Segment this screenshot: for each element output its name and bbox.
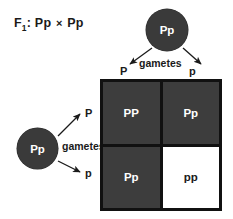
cross-symbol: × xyxy=(55,17,64,29)
gametes-label-left: gametes xyxy=(62,140,105,152)
generation-letter: F xyxy=(14,16,22,30)
arrow-left-parent-to-P xyxy=(58,114,80,136)
punnett-grid: PP Pp Pp pp xyxy=(100,79,222,211)
punnett-cell: PP xyxy=(103,82,160,144)
arrow-top-parent-to-p xyxy=(183,48,201,64)
punnett-square-diagram: F1: Pp × Pp Pp gametes P p Pp gametes P … xyxy=(0,0,233,219)
punnett-cell: Pp xyxy=(163,82,220,144)
gamete-allele-left-bottom: p xyxy=(85,167,92,179)
gamete-allele-top-left: P xyxy=(120,65,127,77)
punnett-cell-genotype: PP xyxy=(124,107,139,119)
punnett-cell: Pp xyxy=(103,147,160,209)
punnett-cell-genotype: Pp xyxy=(183,107,198,119)
parent-circle-top: Pp xyxy=(146,9,188,51)
gamete-allele-top-right: p xyxy=(189,65,196,77)
parent-left-genotype: Pp xyxy=(30,143,45,155)
parent-top-genotype: Pp xyxy=(160,24,175,36)
gamete-allele-left-top: P xyxy=(85,107,92,119)
gametes-label-top: gametes xyxy=(139,57,182,69)
arrow-left-parent-to-p xyxy=(58,161,80,172)
parent-circle-left: Pp xyxy=(17,128,58,169)
parent1-genotype-label: Pp xyxy=(35,16,51,30)
parent2-genotype-label: Pp xyxy=(67,16,83,30)
f1-cross-label: F1: Pp × Pp xyxy=(14,16,84,33)
punnett-cell-genotype: pp xyxy=(184,171,198,183)
punnett-cell-genotype: Pp xyxy=(124,171,139,183)
punnett-cell: pp xyxy=(163,147,220,209)
label-separator: : xyxy=(27,16,31,30)
